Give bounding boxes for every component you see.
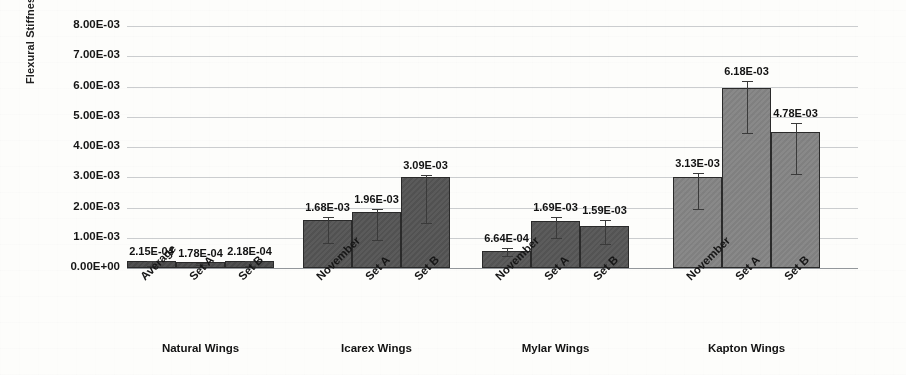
flexural-stiffness-bar-chart: Flexural Stiffness (N-m^2) 8.00E-037.00E… [0, 0, 906, 375]
error-bar [796, 123, 797, 174]
bar-value-label: 6.64E-04 [473, 232, 541, 244]
error-bar [747, 81, 748, 133]
y-axis-tick-label: 7.00E-03 [42, 48, 120, 60]
bar-value-label: 6.18E-03 [713, 65, 781, 77]
error-bar-cap-top [323, 217, 334, 218]
error-bar-cap-bottom [791, 174, 802, 175]
bar-value-label: 3.09E-03 [392, 159, 460, 171]
error-bar-cap-top [600, 220, 611, 221]
bar-value-label: 3.13E-03 [664, 157, 732, 169]
bar-value-label: 1.96E-03 [343, 193, 411, 205]
error-bar-cap-top [551, 217, 562, 218]
error-bar-cap-bottom [693, 209, 704, 210]
error-bar [507, 248, 508, 256]
error-bar-cap-top [693, 173, 704, 174]
error-bar-cap-top [421, 175, 432, 176]
y-axis-tick-label: 8.00E-03 [42, 18, 120, 30]
error-bar [556, 217, 557, 238]
y-axis-tick-label: 6.00E-03 [42, 79, 120, 91]
bar-value-label: 1.59E-03 [571, 204, 639, 216]
error-bar [698, 173, 699, 209]
error-bar [426, 175, 427, 223]
y-axis-tick-label: 4.00E-03 [42, 139, 120, 151]
error-bar-cap-top [502, 248, 513, 249]
error-bar-cap-bottom [742, 133, 753, 134]
y-axis-tick-label: 2.00E-03 [42, 200, 120, 212]
error-bar [328, 217, 329, 242]
bar-value-label: 4.78E-03 [762, 107, 830, 119]
error-bar-cap-bottom [551, 238, 562, 239]
gridline [127, 26, 858, 27]
y-axis-tick-label: 3.00E-03 [42, 169, 120, 181]
x-axis-group-label: Natural Wings [131, 342, 271, 354]
error-bar-cap-bottom [372, 240, 383, 241]
y-axis-title: Flexural Stiffness (N-m^2) [24, 0, 36, 84]
error-bar [605, 220, 606, 244]
y-axis-tick-label: 1.00E-03 [42, 230, 120, 242]
x-axis-group-label: Mylar Wings [486, 342, 626, 354]
error-bar [377, 209, 378, 240]
y-axis-tick-label: 0.00E+00 [42, 260, 120, 272]
x-axis-group-label: Kapton Wings [677, 342, 817, 354]
error-bar-cap-bottom [323, 243, 334, 244]
error-bar-cap-top [372, 209, 383, 210]
gridline [127, 56, 858, 57]
error-bar-cap-bottom [421, 223, 432, 224]
y-axis-tick-label: 5.00E-03 [42, 109, 120, 121]
x-axis-group-label: Icarex Wings [307, 342, 447, 354]
error-bar-cap-bottom [600, 244, 611, 245]
bar-value-label: 2.18E-04 [216, 245, 284, 257]
error-bar-cap-top [742, 81, 753, 82]
error-bar-cap-top [791, 123, 802, 124]
